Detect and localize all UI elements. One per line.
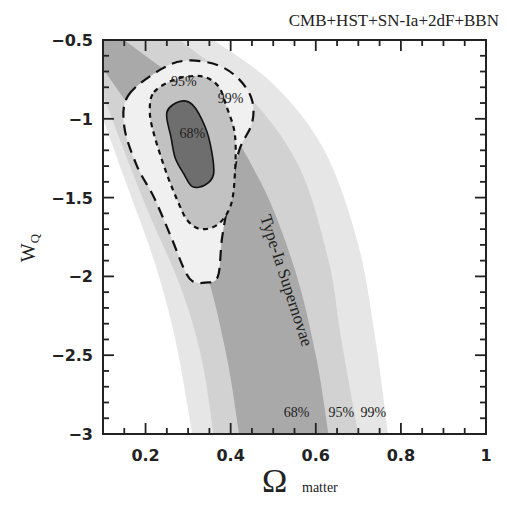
sn-band-label-68pct: 68%	[284, 405, 310, 420]
x-axis-label-subscript: matter	[302, 480, 338, 495]
y-axis-label-main: W	[17, 243, 39, 262]
contour-label-99pct: 99%	[218, 91, 244, 106]
y-axis-label-text: WQ	[17, 233, 42, 262]
sn-band-label-99pct: 99%	[360, 405, 386, 420]
y-tick-label: −1.5	[51, 189, 93, 208]
x-axis-label-omega: Ω	[262, 462, 287, 499]
x-tick-label: 0.4	[216, 446, 244, 465]
y-tick-label: −3	[68, 425, 93, 444]
y-axis-tick-labels: −0.5−1−1.5−2−2.5−3	[51, 31, 93, 444]
contour-label-95pct: 95%	[171, 74, 197, 89]
y-tick-label: −0.5	[51, 31, 93, 50]
y-axis-label: WQ	[17, 233, 42, 262]
chart-title: CMB+HST+SN-Ia+2dF+BBN	[289, 11, 499, 30]
y-tick-label: −2	[68, 267, 93, 286]
contour-label-68pct: 68%	[180, 126, 206, 141]
x-tick-label: 1	[480, 446, 491, 465]
y-tick-label: −2.5	[51, 346, 93, 365]
contour-chart: CMB+HST+SN-Ia+2dF+BBN Type-Ia Supernovae…	[0, 0, 507, 511]
x-tick-label: 0.2	[131, 446, 159, 465]
x-axis-tick-labels: 0.20.40.60.81	[131, 446, 491, 465]
y-axis-label-subscript: Q	[27, 233, 42, 243]
x-tick-label: 0.6	[302, 446, 330, 465]
x-tick-label: 0.8	[387, 446, 415, 465]
sn-band-label-95pct: 95%	[328, 405, 354, 420]
y-tick-label: −1	[68, 110, 93, 129]
x-axis-label: Ω matter	[262, 462, 338, 499]
